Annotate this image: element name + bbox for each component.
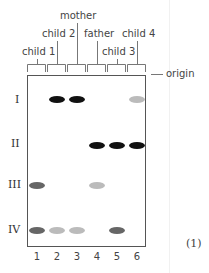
band-II-lane-4 — [89, 142, 105, 149]
band-I-lane-2 — [49, 96, 65, 103]
band-IV-lane-2 — [49, 227, 65, 234]
row-label-III: III — [8, 178, 21, 191]
gel — [27, 75, 146, 247]
band-IV-lane-5 — [109, 227, 125, 234]
row-label-I: I — [15, 93, 19, 106]
band-I-lane-3 — [69, 96, 85, 103]
origin-label: origin — [166, 68, 194, 79]
band-IV-lane-1 — [29, 227, 45, 234]
row-label-II: II — [11, 137, 20, 150]
lane-number-4: 4 — [91, 251, 103, 262]
lane-number-1: 1 — [31, 251, 43, 262]
band-II-lane-6 — [129, 142, 145, 149]
lane-number-5: 5 — [111, 251, 123, 262]
band-IV-lane-3 — [69, 227, 85, 234]
lane-number-3: 3 — [71, 251, 83, 262]
band-III-lane-4 — [89, 182, 105, 189]
figure-number: (1) — [186, 237, 202, 250]
lane-number-2: 2 — [51, 251, 63, 262]
band-I-lane-6 — [129, 96, 145, 103]
row-label-IV: IV — [8, 223, 20, 236]
band-II-lane-5 — [109, 142, 125, 149]
lane-number-6: 6 — [131, 251, 143, 262]
band-III-lane-1 — [29, 182, 45, 189]
